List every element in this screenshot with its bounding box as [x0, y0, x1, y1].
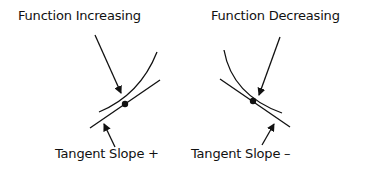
tangent-arrow — [262, 124, 274, 145]
decreasing-panel — [220, 37, 290, 145]
increasing-panel — [90, 35, 160, 147]
tangent-point — [250, 98, 256, 104]
title-arrow — [259, 37, 280, 95]
tangent-arrow — [104, 124, 115, 147]
decreasing-title: Function Decreasing — [211, 8, 340, 23]
positive-slope-label: Tangent Slope + — [55, 146, 159, 161]
negative-slope-label: Tangent Slope – — [191, 146, 290, 161]
increasing-title: Function Increasing — [18, 8, 141, 23]
tangent-point — [122, 101, 128, 107]
title-arrow — [95, 35, 121, 93]
